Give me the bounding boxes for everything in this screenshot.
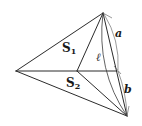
arc-a [104,14,118,70]
tick-bottom [127,106,129,116]
label-b: b [124,83,132,96]
label-ell: ℓ [96,51,101,64]
edge-center-bottom [77,71,127,116]
label-s1: S1 [62,41,76,56]
tick-mid [114,66,121,74]
label-a: a [115,27,122,40]
label-s2: S2 [66,76,80,91]
geometry-diagram: S1 S2 a b ℓ [0,0,142,126]
